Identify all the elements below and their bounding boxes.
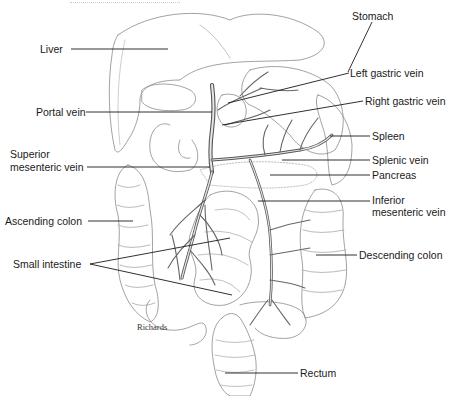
label-portal-vein: Portal vein bbox=[36, 106, 86, 118]
spleen-shape bbox=[316, 95, 352, 185]
inferior-mesenteric-vein-shape bbox=[250, 160, 272, 305]
label-spleen: Spleen bbox=[372, 130, 405, 142]
label-small-intestine: Small intestine bbox=[13, 258, 81, 270]
leader-right-gastric-vein bbox=[222, 101, 363, 125]
splenic-vein-shape bbox=[212, 135, 332, 160]
label-liver: Liver bbox=[40, 43, 63, 55]
label-splenic-vein: Splenic vein bbox=[372, 154, 429, 166]
leader-stomach bbox=[348, 22, 372, 72]
label-descending-colon: Descending colon bbox=[359, 249, 442, 261]
rectum-shape bbox=[212, 314, 256, 396]
leader-small-intestine-b bbox=[90, 264, 232, 295]
liver-shape bbox=[109, 13, 324, 152]
label-inferior-mesenteric-vein-line2: mesenteric vein bbox=[372, 206, 446, 218]
label-right-gastric-vein: Right gastric vein bbox=[365, 95, 446, 107]
label-superior-mesenteric-vein-line1: Superior bbox=[10, 148, 50, 160]
label-superior-mesenteric-vein-line2: mesenteric vein bbox=[10, 161, 84, 173]
descending-colon-shape bbox=[300, 189, 346, 318]
label-pancreas: Pancreas bbox=[372, 169, 416, 181]
label-rectum: Rectum bbox=[300, 367, 336, 379]
label-ascending-colon: Ascending colon bbox=[5, 215, 82, 227]
artist-signature: Richards bbox=[137, 322, 167, 332]
cropped-caption-remnant bbox=[70, 0, 180, 3]
label-stomach: Stomach bbox=[352, 10, 393, 22]
ascending-colon-shape bbox=[115, 165, 158, 322]
label-left-gastric-vein: Left gastric vein bbox=[350, 67, 424, 79]
leader-left-gastric-vein bbox=[228, 73, 349, 103]
label-inferior-mesenteric-vein-line1: Inferior bbox=[372, 194, 405, 206]
